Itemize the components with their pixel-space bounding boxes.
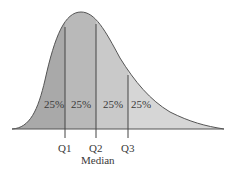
region-1 — [0, 0, 65, 130]
median-label: Median — [81, 154, 115, 166]
q2-label: Q2 — [89, 142, 102, 154]
region-4 — [128, 0, 228, 130]
region-1-label: 25% — [44, 98, 64, 110]
region-3-label: 25% — [103, 98, 123, 110]
region-2 — [65, 0, 96, 130]
region-2-label: 25% — [71, 98, 91, 110]
region-4-label: 25% — [131, 98, 151, 110]
q3-label: Q3 — [121, 142, 135, 154]
region-3 — [96, 0, 128, 130]
quartile-diagram: 25% 25% 25% 25% Q1 Q2 Median Q3 — [0, 0, 232, 172]
q1-label: Q1 — [58, 142, 71, 154]
